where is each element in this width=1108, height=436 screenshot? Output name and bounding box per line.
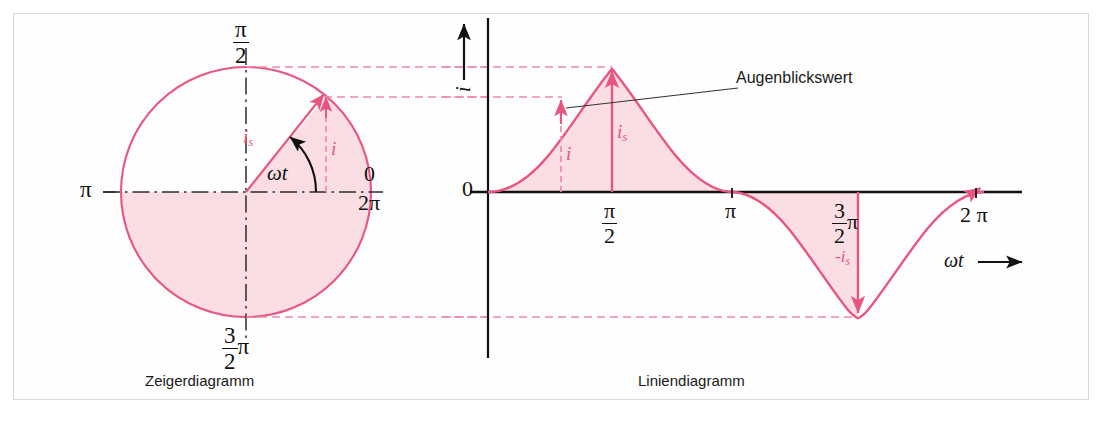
annotation-augenblickswert: Augenblickswert (736, 69, 853, 87)
phasor-label-pi: π (80, 178, 92, 201)
x-tick-label-two-pi: 2 π (960, 204, 988, 226)
y-axis-label-i: i (453, 86, 473, 92)
peak-label-is: is (617, 122, 627, 144)
x-tick-label-pi: π (725, 200, 736, 222)
figure-root: π 2 π 0 2π 3 2 π is i ωt i 0 π 2 π 3 2 π… (0, 0, 1108, 436)
caption-liniendiagramm: Liniendiagramm (638, 372, 745, 389)
phasor-label-three-pi-over-2: 3 2 π (222, 324, 249, 373)
phasor-label-two-pi: 2π (358, 192, 380, 214)
x-tick-label-three-pi-over-2: 3 2 π (832, 200, 858, 247)
sine-lobe-positive-fill (488, 69, 732, 192)
phasor-vector-label-is: is (243, 127, 253, 149)
diagram-canvas (0, 0, 1108, 436)
instant-label-i: i (566, 144, 571, 163)
sine-curve (488, 69, 984, 318)
phasor-label-zero: 0 (364, 163, 375, 185)
phasor-diagram-group (103, 48, 383, 338)
trough-label-neg-is: -is (835, 248, 850, 267)
origin-label-zero: 0 (462, 178, 473, 200)
x-tick-label-pi-over-2: π 2 (602, 200, 617, 247)
phasor-angle-label-omega-t: ωt (267, 163, 288, 184)
caption-zeigerdiagramm: Zeigerdiagramm (145, 372, 254, 389)
phasor-label-pi-over-2: π 2 (233, 18, 249, 67)
x-axis-label-omega-t: ωt (944, 250, 964, 270)
phasor-sector-upper-right (246, 96, 371, 192)
phasor-projection-label-i: i (331, 139, 336, 158)
